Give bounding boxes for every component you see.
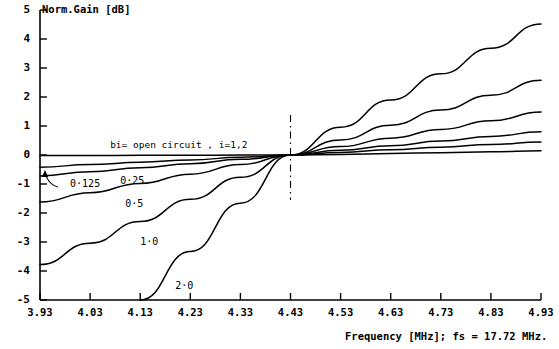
chart-plot-svg	[0, 0, 559, 349]
series-annotation-label: bi= open circuit , i=1,2	[110, 139, 247, 150]
y-axis-tick-label: 1	[14, 119, 30, 132]
x-axis-tick-label: 3.93	[18, 306, 62, 318]
x-axis-tick-label: 4.53	[319, 306, 363, 318]
y-axis-tick-label: -5	[14, 293, 30, 306]
x-axis-tick-label: 4.03	[68, 306, 112, 318]
x-axis-tick-label: 4.93	[519, 306, 559, 318]
y-axis-tick-label: 4	[14, 32, 30, 45]
series-annotation-label: 1·0	[140, 236, 158, 247]
chart-figure: 543210-1-2-3-4-5 3.934.034.134.234.334.4…	[0, 0, 559, 349]
x-axis-title: Frequency [MHz]; fs = 17.72 MHz.	[345, 330, 547, 342]
y-axis-tick-label: 5	[14, 3, 30, 16]
x-axis-tick-label: 4.43	[269, 306, 313, 318]
y-axis-tick-label: 0	[14, 148, 30, 161]
series-annotation-label: 0·5	[125, 198, 143, 209]
x-axis-tick-label: 4.83	[469, 306, 513, 318]
x-axis-tick-label: 4.13	[118, 306, 162, 318]
y-axis-tick-label: 2	[14, 90, 30, 103]
series-annotation-label: 2·0	[175, 280, 193, 291]
x-axis-tick-label: 4.63	[369, 306, 413, 318]
chart-series-line	[40, 80, 541, 264]
y-axis-tick-label: -2	[14, 206, 30, 219]
y-axis-title: Norm.Gain [dB]	[42, 3, 131, 15]
chart-series-line	[40, 112, 541, 202]
y-axis-tick-label: -3	[14, 235, 30, 248]
y-axis-tick-label: -1	[14, 177, 30, 190]
y-axis-tick-label: -4	[14, 264, 30, 277]
x-axis-tick-label: 4.73	[419, 306, 463, 318]
x-axis-tick-label: 4.33	[218, 306, 262, 318]
y-axis-tick-label: 3	[14, 61, 30, 74]
series-annotation-label: 0·25	[120, 175, 144, 186]
series-annotation-label: 0·125	[70, 178, 100, 189]
chart-series-line	[140, 24, 541, 300]
chart-series-group	[40, 24, 541, 300]
x-axis-tick-label: 4.23	[168, 306, 212, 318]
